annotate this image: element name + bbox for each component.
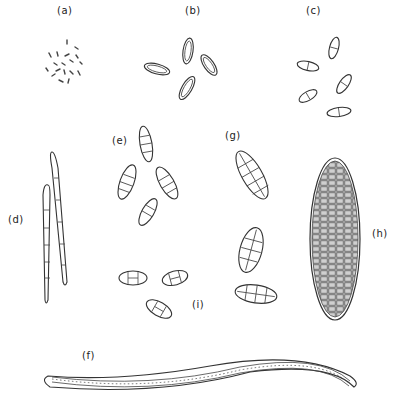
spore-f [44, 360, 356, 390]
spores-b [143, 37, 220, 101]
spores-c [296, 36, 354, 118]
spores-e [114, 125, 182, 228]
spores-g [230, 147, 278, 306]
spore-h [310, 158, 360, 320]
spores-i [119, 268, 189, 322]
spores-d [43, 152, 67, 303]
spores-a [46, 40, 82, 83]
spore-figure: (a) (b) (c) (d) (e) (g) (h) (i) (f) [0, 0, 399, 405]
